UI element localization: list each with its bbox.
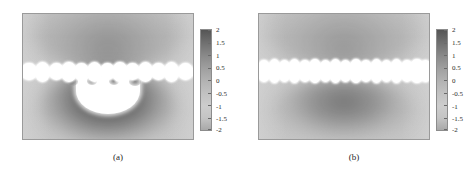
- colorbar-a: 2 1.5 1 0.5 0 -0.5 -1 -1.5 -2: [200, 29, 238, 131]
- colorbar-tick-label: 1.5: [216, 39, 225, 46]
- bright-chain-b: [259, 59, 429, 83]
- colorbar-gradient-a: [200, 29, 212, 131]
- dark-halo-lower-b: [273, 77, 416, 141]
- colorbar-tick-label: 0: [452, 78, 456, 85]
- colorbar-ticks-b: [437, 30, 447, 130]
- colorbar-tick-label: -0.5: [452, 90, 463, 97]
- colorbar-labels-b: 2 1.5 1 0.5 0 -0.5 -1 -1.5 -2: [452, 29, 473, 131]
- colorbar-tick-label: 0.5: [452, 65, 461, 72]
- colorbar-tick-label: -2: [452, 126, 458, 133]
- colorbar-tick-label: 1: [452, 52, 456, 59]
- colorbar-tick-label: 1: [216, 52, 220, 59]
- colorbar-labels-a: 2 1.5 1 0.5 0 -0.5 -1 -1.5 -2: [216, 29, 238, 131]
- colorbar-tick-label: -0.5: [216, 90, 227, 97]
- colorbar-tick-label: -1.5: [216, 116, 227, 123]
- colorbar-tick-label: -1: [216, 103, 222, 110]
- figure-container: 2 1.5 1 0.5 0 -0.5 -1 -1.5 -2 (a): [0, 0, 473, 176]
- colorbar-tick-label: -2: [216, 126, 222, 133]
- plot-frame-a: [22, 13, 194, 140]
- chain-lobe-a: [35, 62, 50, 82]
- chain-lobe-b: [419, 60, 430, 82]
- chain-lobe-a: [178, 63, 193, 81]
- colorbar-tick-label: -1: [452, 103, 458, 110]
- colorbar-gradient-b: [436, 29, 448, 131]
- colorbar-tick-label: 2: [452, 27, 456, 34]
- colorbar-tick-label: 0: [216, 78, 220, 85]
- panel-caption-b: (b): [236, 152, 472, 162]
- colorbar-tick-label: 0.5: [216, 65, 225, 72]
- panel-b: 2 1.5 1 0.5 0 -0.5 -1 -1.5 -2 (b): [236, 0, 472, 176]
- colorbar-ticks-a: [201, 30, 211, 130]
- plot-frame-b: [258, 13, 430, 140]
- bright-chain-a: [23, 62, 193, 82]
- panel-caption-a: (a): [0, 152, 236, 162]
- colorbar-tick-label: -1.5: [452, 116, 463, 123]
- colorbar-tick-label: 2: [216, 27, 220, 34]
- panel-a: 2 1.5 1 0.5 0 -0.5 -1 -1.5 -2 (a): [0, 0, 236, 176]
- colorbar-tick-label: 1.5: [452, 39, 461, 46]
- colorbar-b: 2 1.5 1 0.5 0 -0.5 -1 -1.5 -2: [436, 29, 473, 131]
